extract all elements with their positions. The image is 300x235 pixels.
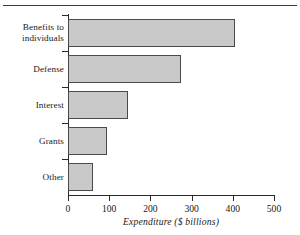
plot-area: Benefits to individuals Defense Interest…: [0, 0, 300, 235]
category-label-benefits-to-individuals: Benefits to individuals: [0, 22, 64, 43]
bar-row: [68, 19, 274, 47]
x-axis-tick: [274, 195, 275, 201]
category-label-line: Interest: [0, 100, 64, 111]
x-axis-tick-label: 200: [130, 203, 170, 214]
bar-benefits-to-individuals[interactable]: [68, 19, 235, 47]
bar-other[interactable]: [68, 163, 93, 191]
x-axis-tick: [233, 195, 234, 201]
x-axis-tick: [150, 195, 151, 201]
category-label-line: Grants: [0, 136, 64, 147]
category-label-line: Defense: [0, 64, 64, 75]
category-label-line: Other: [0, 172, 64, 183]
x-axis-title: Expenditure ($ billions): [68, 216, 274, 227]
category-label-defense: Defense: [0, 64, 64, 75]
x-axis-tick: [192, 195, 193, 201]
x-axis-tick-label: 500: [254, 203, 294, 214]
bar-row: [68, 127, 274, 155]
bar-chart-figure: Benefits to individuals Defense Interest…: [0, 0, 300, 235]
category-label-line: Benefits to: [0, 22, 64, 33]
y-axis-tick: [62, 51, 69, 52]
y-axis-tick: [62, 15, 69, 16]
bar-row: [68, 163, 274, 191]
x-axis-line: [68, 195, 274, 196]
category-label-other: Other: [0, 172, 64, 183]
category-label-interest: Interest: [0, 100, 64, 111]
bar-row: [68, 55, 274, 83]
bar-grants[interactable]: [68, 127, 107, 155]
x-axis-tick-label: 100: [89, 203, 129, 214]
bar-defense[interactable]: [68, 55, 181, 83]
category-label-line: individuals: [0, 33, 64, 44]
x-axis-tick-label: 400: [213, 203, 253, 214]
y-axis-tick: [62, 159, 69, 160]
y-axis-tick: [62, 123, 69, 124]
category-label-grants: Grants: [0, 136, 64, 147]
x-axis-tick-label: 0: [48, 203, 88, 214]
bar-row: [68, 91, 274, 119]
x-axis-tick: [109, 195, 110, 201]
bar-interest[interactable]: [68, 91, 128, 119]
x-axis-tick-label: 300: [172, 203, 212, 214]
y-axis-tick: [62, 87, 69, 88]
x-axis-tick: [68, 195, 69, 201]
